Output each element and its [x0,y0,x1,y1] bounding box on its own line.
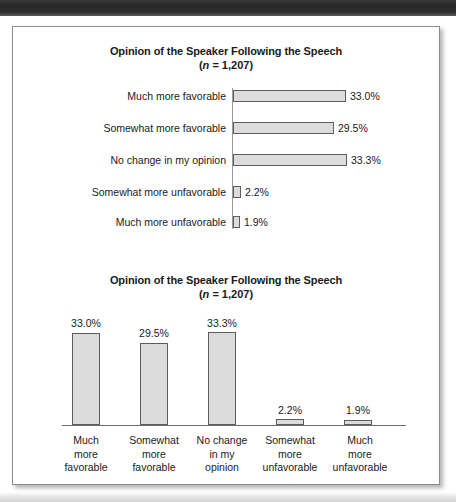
chart2-title-block: Opinion of the Speaker Following the Spe… [13,267,439,301]
chart2-x-label-line: Much [49,434,123,448]
chart2-x-label: Much more favorable [49,434,123,475]
chart2-x-label-line: unfavorable [323,461,397,475]
chart1-value-label: 1.9% [244,215,268,229]
chart2-x-label: No change in my opinion [185,434,259,475]
chart1-subtitle-value: = 1,207) [209,59,253,71]
chart1-bar [233,154,347,166]
chart1-category-label: Much more favorable [13,89,226,103]
chart1-title-block: Opinion of the Speaker Following the Spe… [13,27,439,72]
chart2-value-label: 29.5% [120,327,188,340]
chart2-title: Opinion of the Speaker Following the Spe… [13,273,439,287]
chart1-title: Opinion of the Speaker Following the Spe… [13,44,439,58]
chart2-x-label-line: favorable [117,461,191,475]
chart2-category-axis [62,425,406,426]
chart1-row: Much more favorable 33.0% [13,89,439,103]
chart1-plot-area: Much more favorable 33.0% Somewhat more … [13,86,439,231]
chart2-subtitle-value: = 1,207) [209,288,253,300]
chart2-x-label-line: more [117,448,191,462]
chart1-value-label: 33.0% [350,89,380,103]
chart2-x-label-line: favorable [49,461,123,475]
chart2-x-label: Somewhat more unfavorable [253,434,327,475]
chart1-value-label: 29.5% [338,121,368,135]
chart2-value-label: 33.0% [52,317,120,330]
chart2-x-label-line: opinion [185,461,259,475]
chart2-x-label: Somewhat more favorable [117,434,191,475]
chart1-row: Somewhat more favorable 29.5% [13,121,439,135]
chart2-x-label-line: more [253,448,327,462]
chart2-bar [276,419,304,425]
chart2-bar [140,343,168,425]
scan-top-dark-band [0,0,456,16]
chart1-row: Somewhat more unfavorable 2.2% [13,185,439,199]
chart1-bar [233,122,334,134]
chart1-category-label: Somewhat more favorable [13,121,226,135]
chart2-x-label-line: No change [185,434,259,448]
chart2-value-label: 2.2% [256,404,324,417]
chart1-row: Much more unfavorable 1.9% [13,215,439,229]
chart2-x-label-line: Somewhat [253,434,327,448]
chart1-bar [233,186,241,198]
chart1-value-label: 33.3% [351,153,381,167]
scan-bottom-band [0,492,456,502]
chart1-row: No change in my opinion 33.3% [13,153,439,167]
chart2-subtitle: (n = 1,207) [13,287,439,301]
chart2-x-label-line: in my [185,448,259,462]
chart2-x-label-line: unfavorable [253,461,327,475]
chart1-category-label: Somewhat more unfavorable [13,185,226,199]
vertical-bar-chart: Opinion of the Speaker Following the Spe… [13,267,439,480]
chart1-bar [233,90,346,102]
figure-frame: Opinion of the Speaker Following the Spe… [12,26,440,485]
chart2-x-label-line: more [323,448,397,462]
chart1-subtitle: (n = 1,207) [13,58,439,72]
chart2-bar [72,333,100,425]
chart2-value-label: 1.9% [324,404,392,417]
chart2-x-axis-labels: Much more favorable Somewhat more favora… [13,434,439,480]
chart2-plot-area: 33.0% 29.5% 33.3% 2.2% 1.9% [13,317,439,432]
chart1-value-label: 2.2% [245,185,269,199]
chart2-bar [344,420,372,425]
chart1-bar [233,216,240,228]
horizontal-bar-chart: Opinion of the Speaker Following the Spe… [13,27,439,231]
chart2-x-label-line: more [49,448,123,462]
chart2-x-label-line: Much [323,434,397,448]
chart2-x-label: Much more unfavorable [323,434,397,475]
chart2-x-label-line: Somewhat [117,434,191,448]
chart1-category-label: No change in my opinion [13,153,226,167]
chart2-bar [208,332,236,425]
chart2-value-label: 33.3% [188,317,256,330]
chart1-category-label: Much more unfavorable [13,215,226,229]
